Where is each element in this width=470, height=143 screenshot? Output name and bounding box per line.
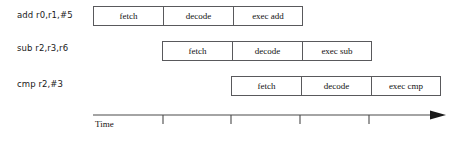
- time-axis-ticks: [163, 115, 369, 124]
- instruction-label-add: add r0,r1,#5: [17, 10, 73, 20]
- stage-box-fetch: fetch: [162, 41, 232, 61]
- instruction-label-sub: sub r2,r3,r6: [17, 43, 68, 53]
- instruction-label-cmp: cmp r2,#3: [17, 79, 63, 89]
- stage-box-decode: decode: [163, 6, 233, 26]
- stage-box-decode: decode: [301, 76, 371, 96]
- time-axis-label: Time: [95, 119, 114, 129]
- arrow-head-icon: [430, 111, 446, 120]
- pipeline-row-add: fetch decode exec add: [93, 6, 303, 26]
- pipeline-row-sub: fetch decode exec sub: [162, 41, 372, 61]
- stage-box-exec-cmp: exec cmp: [371, 76, 441, 96]
- pipeline-timing-diagram: add r0,r1,#5 fetch decode exec add sub r…: [0, 0, 470, 143]
- stage-box-exec-add: exec add: [233, 6, 303, 26]
- stage-box-fetch: fetch: [93, 6, 163, 26]
- stage-box-exec-sub: exec sub: [302, 41, 372, 61]
- stage-box-fetch: fetch: [231, 76, 301, 96]
- pipeline-row-cmp: fetch decode exec cmp: [231, 76, 441, 96]
- stage-box-decode: decode: [232, 41, 302, 61]
